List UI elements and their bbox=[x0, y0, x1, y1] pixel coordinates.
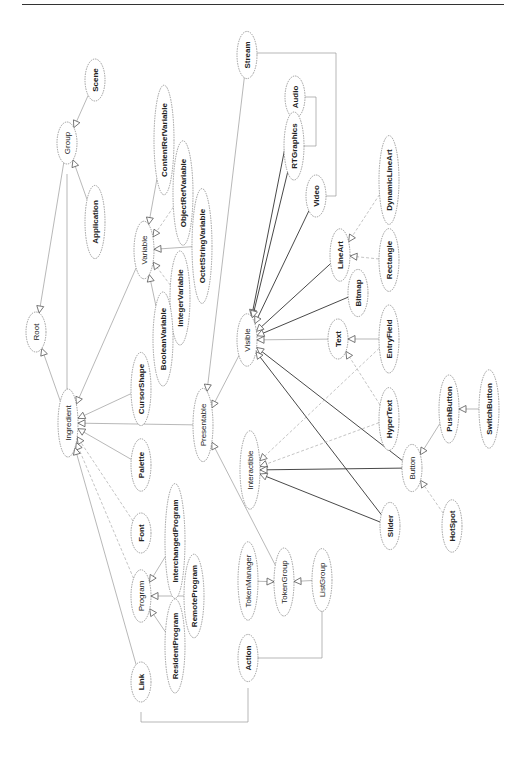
edge-palette-to-ingredient bbox=[78, 429, 131, 460]
class-node-group: Group bbox=[57, 122, 77, 164]
generalization-arrow-icon bbox=[260, 466, 267, 473]
class-node-line-art: LineArt bbox=[330, 229, 350, 281]
node-label: Variable bbox=[140, 235, 149, 264]
class-node-ingredient: Ingredient bbox=[58, 389, 78, 457]
aggregation-action-token-group-list-group bbox=[254, 611, 322, 658]
generalization-arrow-icon bbox=[73, 120, 79, 128]
class-node-interactible: Interactible bbox=[240, 431, 260, 509]
generalization-arrow-icon bbox=[154, 245, 161, 252]
aggregation-link-action bbox=[141, 688, 248, 722]
node-label: Slider bbox=[386, 515, 395, 537]
edge-hyper-text-to-interactible bbox=[260, 423, 379, 467]
class-node-resident-program: ResidentProgram bbox=[165, 599, 185, 693]
generalization-arrow-icon bbox=[150, 574, 157, 582]
generalization-arrow-icon bbox=[255, 316, 261, 324]
node-label: ContentRefVariable bbox=[160, 103, 169, 177]
class-node-content-ref-variable: ContentRefVariable bbox=[154, 85, 174, 195]
edge-link-to-ingredient bbox=[75, 448, 136, 665]
generalization-arrow-icon bbox=[349, 234, 356, 242]
node-label: RTGraphics bbox=[290, 123, 299, 169]
class-node-palette: Palette bbox=[131, 439, 151, 491]
class-node-push-button: PushButton bbox=[439, 375, 459, 443]
generalization-arrow-icon bbox=[153, 262, 160, 270]
class-node-video: Video bbox=[306, 175, 326, 217]
edge-entry-field-to-interactible bbox=[260, 348, 380, 461]
node-label: ListGroup bbox=[318, 562, 327, 597]
class-node-slider: Slider bbox=[380, 502, 400, 549]
node-label: TokenManager bbox=[244, 554, 253, 607]
node-label: Visible bbox=[243, 328, 252, 352]
node-label: Presentable bbox=[199, 403, 208, 446]
node-label: Group bbox=[63, 131, 72, 154]
class-node-cursor-shape: CursorShape bbox=[131, 352, 151, 425]
generalization-arrow-icon bbox=[72, 160, 79, 168]
node-label: ResidentProgram bbox=[171, 613, 180, 680]
class-node-octet-string-variable: OctetStringVariable bbox=[192, 189, 212, 304]
node-label: PushButton bbox=[445, 386, 454, 431]
node-label: HyperText bbox=[385, 399, 394, 438]
generalization-arrow-icon bbox=[421, 480, 428, 488]
class-node-link: Link bbox=[131, 662, 151, 702]
generalization-arrow-icon bbox=[260, 473, 268, 479]
class-node-stream: Stream bbox=[237, 31, 257, 78]
node-label: RemoteProgram bbox=[190, 565, 199, 627]
node-label: LineArt bbox=[336, 241, 345, 269]
class-node-application: Application bbox=[85, 185, 105, 258]
generalization-arrow-icon bbox=[151, 593, 158, 600]
node-label: Action bbox=[244, 645, 253, 670]
class-node-dynamic-line-art: DynamicLineArt bbox=[379, 136, 399, 225]
class-node-rectangle: Rectangle bbox=[379, 229, 399, 292]
class-node-token-manager: TokenManager bbox=[238, 542, 258, 620]
class-node-audio: Audio bbox=[285, 76, 305, 118]
class-hierarchy-diagram: RootGroupSceneApplicationIngredientVaria… bbox=[0, 0, 524, 757]
class-node-text: Text bbox=[328, 319, 348, 359]
edge-cursor-shape-to-ingredient bbox=[78, 394, 131, 419]
class-node-variable: Variable bbox=[134, 221, 154, 279]
class-node-boolean-variable: BooleanVariable bbox=[153, 292, 173, 386]
node-label: SwitchButton bbox=[485, 383, 494, 435]
edge-program-to-ingredient bbox=[76, 442, 133, 578]
node-label: Stream bbox=[243, 41, 252, 68]
node-label: DynamicLineArt bbox=[385, 149, 394, 211]
class-node-visible: Visible bbox=[237, 314, 257, 366]
class-node-root: Root bbox=[26, 312, 46, 352]
edge-visible-to-presentable bbox=[212, 356, 239, 408]
node-label: HotSpot bbox=[448, 510, 457, 541]
node-label: OctetStringVariable bbox=[198, 208, 207, 283]
class-node-switch-button: SwitchButton bbox=[479, 370, 499, 448]
node-label: Audio bbox=[291, 86, 300, 109]
edge-slider-to-visible bbox=[256, 352, 381, 515]
node-label: Interactible bbox=[246, 450, 255, 490]
class-node-rtgraphics: RTGraphics bbox=[284, 112, 304, 180]
generalization-arrow-icon bbox=[294, 578, 301, 585]
generalization-arrow-icon bbox=[78, 429, 86, 436]
generalization-arrow-icon bbox=[77, 437, 84, 445]
generalization-arrow-icon bbox=[350, 253, 357, 260]
generalization-arrow-icon bbox=[348, 336, 355, 343]
generalization-arrow-icon bbox=[420, 447, 427, 455]
node-label: Text bbox=[334, 331, 343, 347]
edge-ingredient-to-root bbox=[42, 348, 61, 401]
node-label: InterchangedProgram bbox=[171, 499, 180, 582]
node-label: Program bbox=[137, 580, 146, 611]
node-label: Bitmap bbox=[354, 279, 363, 306]
class-node-program: Program bbox=[131, 570, 151, 622]
edge-variable-to-ingredient bbox=[76, 268, 136, 404]
node-label: ObjectRefVariable bbox=[179, 158, 188, 227]
class-node-font: Font bbox=[131, 513, 151, 553]
node-label: IntegerVariable bbox=[176, 269, 185, 327]
node-label: Video bbox=[312, 185, 321, 207]
generalization-arrow-icon bbox=[346, 351, 353, 359]
generalization-arrow-icon bbox=[78, 420, 85, 427]
generalization-arrow-icon bbox=[459, 406, 466, 413]
class-node-action: Action bbox=[238, 634, 258, 681]
class-node-object-ref-variable: ObjectRefVariable bbox=[173, 141, 193, 245]
class-node-list-group: ListGroup bbox=[312, 549, 332, 612]
class-node-hot-spot: HotSpot bbox=[442, 500, 462, 552]
edge-video-to-visible bbox=[255, 211, 309, 324]
generalization-arrow-icon bbox=[257, 336, 264, 343]
node-label: Link bbox=[137, 673, 146, 690]
generalization-arrow-icon bbox=[150, 609, 157, 617]
node-label: Rectangle bbox=[385, 240, 394, 279]
node-label: Button bbox=[408, 456, 417, 479]
